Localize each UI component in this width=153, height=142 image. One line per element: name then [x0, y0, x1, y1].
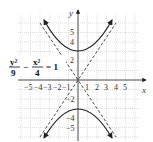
svg-text:−2: −2 — [66, 95, 75, 104]
svg-text:5: 5 — [70, 28, 74, 37]
svg-text:−: − — [23, 62, 28, 72]
svg-text:2: 2 — [70, 56, 74, 65]
svg-text:4: 4 — [35, 68, 40, 78]
y-tick-labels: 5 4 2 −2 −4 −5 — [66, 28, 75, 133]
x-axis-label: x — [141, 85, 146, 95]
svg-text:4: 4 — [114, 83, 118, 92]
svg-text:x²: x² — [33, 57, 41, 67]
svg-text:−1: −1 — [62, 83, 71, 92]
svg-text:−5: −5 — [66, 124, 75, 133]
svg-text:y²: y² — [10, 57, 18, 67]
svg-text:−3: −3 — [43, 83, 52, 92]
svg-text:= 1: = 1 — [46, 62, 58, 72]
hyperbola-graph: x y −5 −4 −3 −2 −1 1 2 3 4 5 5 4 2 −2 −4… — [0, 0, 153, 142]
svg-text:3: 3 — [104, 83, 108, 92]
svg-text:5: 5 — [123, 83, 127, 92]
y-axis-label: y — [68, 8, 73, 18]
svg-text:1: 1 — [85, 83, 89, 92]
svg-text:2: 2 — [95, 83, 99, 92]
svg-text:−4: −4 — [34, 83, 43, 92]
svg-text:9: 9 — [11, 68, 16, 78]
svg-text:−4: −4 — [66, 114, 75, 123]
svg-text:−5: −5 — [24, 83, 33, 92]
x-tick-labels: −5 −4 −3 −2 −1 1 2 3 4 5 — [24, 83, 127, 92]
equation-label: y² 9 − x² 4 = 1 — [6, 56, 66, 78]
svg-text:4: 4 — [70, 38, 74, 47]
svg-text:−2: −2 — [53, 83, 62, 92]
